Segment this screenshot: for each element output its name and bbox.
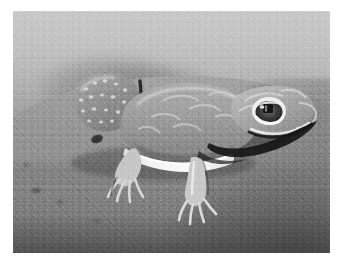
pebble bbox=[165, 229, 171, 232]
screenshot-root bbox=[0, 0, 342, 267]
photograph bbox=[13, 11, 330, 253]
pebble bbox=[32, 188, 41, 193]
corner-vignette bbox=[172, 171, 331, 253]
